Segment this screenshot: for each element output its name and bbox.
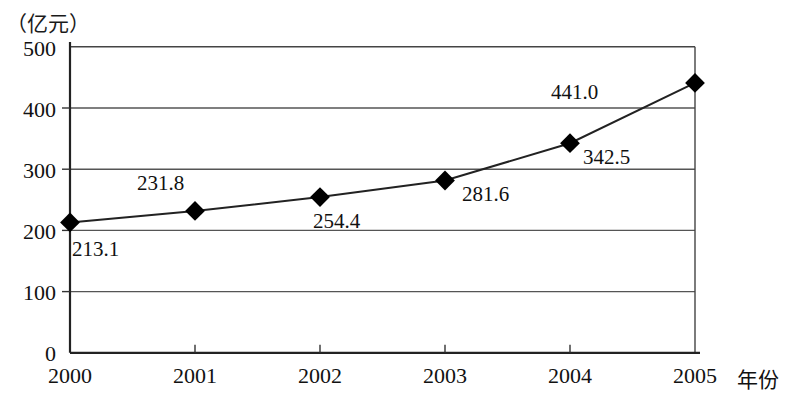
plot-border	[70, 47, 695, 353]
y-axis-ticks	[62, 108, 70, 292]
x-tick-label-2004: 2004	[525, 363, 615, 389]
gridlines	[70, 108, 695, 292]
data-point-2004[interactable]	[560, 133, 580, 153]
x-axis-ticks	[195, 345, 570, 353]
x-tick-label-2001: 2001	[150, 363, 240, 389]
data-point-2001[interactable]	[185, 201, 205, 221]
x-tick-label-2003: 2003	[400, 363, 490, 389]
data-label-2004: 342.5	[583, 145, 630, 170]
data-point-2003[interactable]	[435, 171, 455, 191]
data-point-2000[interactable]	[60, 213, 80, 233]
data-label-2000: 213.1	[72, 237, 119, 262]
x-axis-title: 年份	[737, 363, 779, 393]
data-label-2002: 254.4	[313, 209, 360, 234]
x-tick-label-2000: 2000	[25, 363, 115, 389]
data-label-2003: 281.6	[462, 182, 509, 207]
plot-area	[0, 0, 785, 393]
data-point-2005[interactable]	[685, 73, 705, 93]
data-label-2001: 231.8	[137, 171, 184, 196]
data-point-2002[interactable]	[310, 187, 330, 207]
x-tick-label-2002: 2002	[275, 363, 365, 389]
data-label-2005: 441.0	[551, 80, 598, 105]
x-tick-label-2005: 2005	[650, 363, 740, 389]
line-chart: （亿元） 500 400 300 200 100 0	[0, 0, 785, 393]
